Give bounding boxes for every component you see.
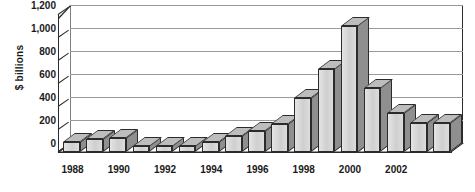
x-axis-tick-labels: 19881990199219941996199820002002 — [58, 0, 475, 192]
plot-area: 19881990199219941996199820002002 — [58, 0, 475, 192]
x-tick-label: 1996 — [246, 164, 268, 175]
y-tick-label: 600 — [0, 69, 56, 80]
x-tick-label: 1988 — [61, 164, 83, 175]
y-tick-label: 800 — [0, 46, 56, 57]
y-tick-label: 0 — [0, 138, 56, 149]
y-tick-label: 1,200 — [0, 0, 56, 11]
x-tick-label: 1990 — [108, 164, 130, 175]
y-tick-label: 1,000 — [0, 23, 56, 34]
y-axis-tick-labels: 02004006008001,0001,200 — [0, 0, 56, 192]
x-tick-label: 1994 — [200, 164, 222, 175]
bar-chart: $ billions 02004006008001,0001,200 19881… — [0, 0, 475, 192]
y-tick-label: 200 — [0, 115, 56, 126]
x-tick-label: 1992 — [154, 164, 176, 175]
y-tick-label: 400 — [0, 92, 56, 103]
x-tick-label: 1998 — [293, 164, 315, 175]
x-tick-label: 2002 — [385, 164, 407, 175]
x-tick-label: 2000 — [339, 164, 361, 175]
